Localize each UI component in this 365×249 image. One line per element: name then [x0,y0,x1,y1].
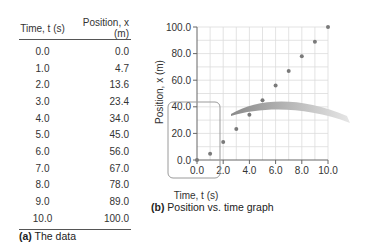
y-tick-label: 60.0 [172,75,192,86]
data-point [247,113,251,117]
data-point [234,127,238,131]
data-point [195,158,199,162]
data-point [313,40,317,44]
x-axis-label: Time, t (s) [174,190,219,201]
data-point [326,25,330,29]
chart-axes: 0.020.040.060.080.0100.00.02.04.06.08.01… [166,22,338,177]
caption-text: Position vs. time graph [164,201,273,213]
y-tick-label: 40.0 [172,101,192,112]
y-tick-label: 20.0 [172,128,192,139]
x-tick-label: 2.0 [216,165,230,176]
x-tick-label: 10.0 [318,165,338,176]
graph-caption: (b) Position vs. time graph [151,201,274,213]
data-point [287,69,291,73]
y-tick-label: 0.0 [177,155,191,166]
data-point [208,152,212,156]
x-tick-label: 4.0 [242,165,256,176]
data-point [300,54,304,58]
data-point [221,140,225,144]
x-tick-label: 8.0 [295,165,309,176]
data-point [274,84,278,88]
y-axis-label: Position, x (m) [154,60,165,124]
chart-grid [197,27,328,160]
x-tick-label: 6.0 [269,165,283,176]
data-point [261,98,265,102]
caption-label: (b) [151,201,164,213]
x-tick-label: 0.0 [190,165,204,176]
y-tick-label: 80.0 [172,48,192,59]
y-tick-label: 100.0 [166,22,191,33]
